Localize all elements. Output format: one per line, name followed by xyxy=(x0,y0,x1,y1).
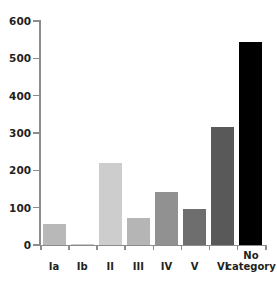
y-axis-tick-label: 300 xyxy=(9,128,31,139)
y-axis-tick xyxy=(33,20,39,22)
y-axis-tick-labels: 0100200300400500600 xyxy=(0,0,31,283)
y-axis-tick xyxy=(33,244,39,246)
bar xyxy=(239,42,262,245)
bar xyxy=(183,209,206,245)
bar-chart: 0100200300400500600 IaIbIIIIIIVVVINo cat… xyxy=(0,0,277,283)
y-axis-tick-label: 600 xyxy=(9,16,31,27)
x-axis-category-labels: IaIbIIIIIIVVVINo category xyxy=(0,250,277,283)
bar xyxy=(211,127,234,245)
y-axis-tick xyxy=(33,170,39,172)
y-axis-tick-label: 500 xyxy=(9,53,31,64)
y-axis-tick-label: 0 xyxy=(24,240,31,251)
x-axis-category-label: No category xyxy=(225,250,277,272)
y-axis-tick xyxy=(33,207,39,209)
bar xyxy=(71,244,94,245)
y-axis-tick xyxy=(33,95,39,97)
bar xyxy=(99,163,122,245)
bars-group xyxy=(40,21,266,245)
bar xyxy=(43,224,66,245)
y-axis-tick-label: 200 xyxy=(9,165,31,176)
bar xyxy=(127,218,150,245)
y-axis-tick xyxy=(33,58,39,60)
y-axis-tick-label: 400 xyxy=(9,91,31,102)
y-axis-tick-label: 100 xyxy=(9,203,31,214)
y-axis-tick xyxy=(33,132,39,134)
bar xyxy=(155,192,178,245)
